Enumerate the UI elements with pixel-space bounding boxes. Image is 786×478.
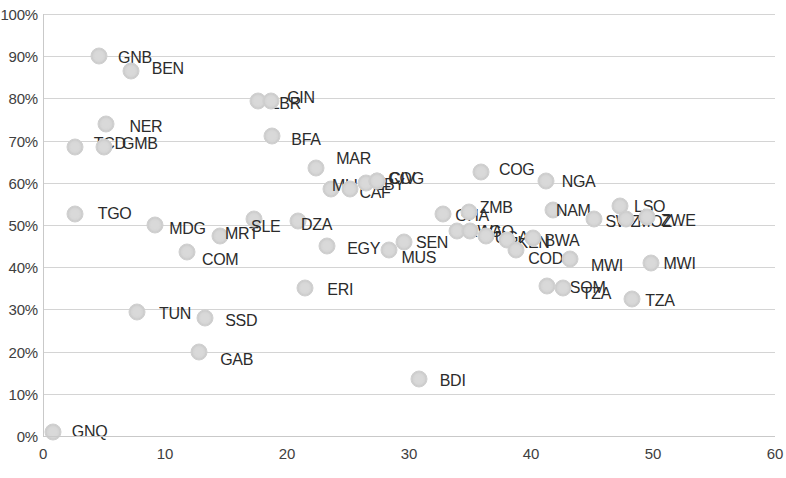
data-point[interactable] (122, 62, 139, 79)
data-point[interactable] (525, 229, 542, 246)
x-axis-line (43, 436, 775, 437)
y-tick-label: 50% (0, 217, 38, 234)
data-point[interactable] (410, 371, 427, 388)
data-point-label: MDG (169, 220, 205, 238)
y-tick-label: 80% (0, 90, 38, 107)
data-point-label: MUS (401, 249, 436, 267)
data-point-label: BWA (544, 232, 579, 250)
data-point[interactable] (308, 160, 325, 177)
data-point[interactable] (98, 115, 115, 132)
data-point[interactable] (369, 172, 386, 189)
data-point[interactable] (44, 423, 61, 440)
data-point[interactable] (66, 206, 83, 223)
data-point[interactable] (396, 233, 413, 250)
data-point[interactable] (462, 223, 479, 240)
plot-area: GNQTGOGNBTCDGMBBENNERTUNMDGCOMMRTSSDGABS… (43, 14, 775, 436)
data-point[interactable] (554, 280, 571, 297)
data-point[interactable] (319, 238, 336, 255)
data-point-label: COD (528, 250, 563, 268)
data-point-label: MWI (591, 257, 623, 275)
data-point[interactable] (128, 303, 145, 320)
data-point[interactable] (178, 244, 195, 261)
data-point-label: EGY (347, 240, 380, 258)
data-point[interactable] (147, 217, 164, 234)
data-point[interactable] (624, 290, 641, 307)
data-point-label: GMB (122, 135, 158, 153)
data-point[interactable] (537, 172, 554, 189)
x-tick-label: 20 (267, 445, 307, 462)
x-tick-label: 10 (145, 445, 185, 462)
data-point-label: ZWE (661, 212, 696, 230)
data-point-label: TZA (645, 292, 674, 310)
data-point[interactable] (460, 204, 477, 221)
data-point-label: BEN (152, 60, 184, 78)
y-tick-label: 20% (0, 343, 38, 360)
data-point[interactable] (562, 250, 579, 267)
data-point[interactable] (586, 210, 603, 227)
gridline-horizontal (43, 394, 775, 395)
data-point-label: SEN (416, 234, 448, 252)
x-tick-label: 60 (755, 445, 786, 462)
data-point-label: SLE (251, 218, 280, 236)
data-point[interactable] (263, 93, 280, 110)
data-point-label: TZA (582, 285, 611, 303)
data-point-label: GNQ (72, 423, 108, 441)
data-point[interactable] (264, 128, 281, 145)
data-point[interactable] (435, 206, 452, 223)
scatter-chart: GNQTGOGNBTCDGMBBENNERTUNMDGCOMMRTSSDGABS… (0, 0, 786, 478)
gridline-horizontal (43, 352, 775, 353)
x-tick-label: 40 (511, 445, 551, 462)
data-point[interactable] (197, 309, 214, 326)
data-point-label: MAR (336, 150, 371, 168)
data-point-label: ERI (327, 281, 353, 299)
data-point-label: BDI (440, 372, 466, 390)
data-point[interactable] (638, 208, 655, 225)
data-point-label: ZMB (480, 199, 513, 217)
data-point-label: TUN (159, 305, 191, 323)
data-point-label: BFA (291, 131, 320, 149)
x-tick-label: 30 (389, 445, 429, 462)
y-tick-label: 100% (0, 6, 38, 23)
gridline-horizontal (43, 56, 775, 57)
data-point-label: COG (499, 161, 535, 179)
y-tick-label: 90% (0, 48, 38, 65)
data-point[interactable] (191, 343, 208, 360)
data-point[interactable] (342, 181, 359, 198)
data-point-label: GAB (220, 351, 253, 369)
data-point[interactable] (91, 48, 108, 65)
data-point-label: GIN (287, 89, 315, 107)
y-tick-label: 70% (0, 132, 38, 149)
gridline-horizontal (43, 14, 775, 15)
data-point-label: NGA (562, 173, 596, 191)
data-point[interactable] (297, 280, 314, 297)
data-point[interactable] (508, 242, 525, 259)
data-point-label: SSD (225, 312, 257, 330)
gridline-horizontal (43, 98, 775, 99)
data-point[interactable] (96, 138, 113, 155)
data-point-label: NER (129, 118, 162, 136)
x-tick-label: 50 (633, 445, 673, 462)
y-tick-label: 40% (0, 259, 38, 276)
data-point-label: COG (388, 170, 424, 188)
data-point-label: DZA (301, 216, 332, 234)
data-point-label: TGO (98, 205, 132, 223)
data-point[interactable] (642, 254, 659, 271)
y-tick-label: 0% (0, 428, 38, 445)
y-tick-label: 30% (0, 301, 38, 318)
y-tick-label: 10% (0, 385, 38, 402)
data-point[interactable] (472, 164, 489, 181)
data-point[interactable] (538, 278, 555, 295)
data-point-label: COM (202, 251, 238, 269)
y-tick-label: 60% (0, 174, 38, 191)
data-point[interactable] (477, 227, 494, 244)
data-point[interactable] (618, 210, 635, 227)
data-point-label: MWI (664, 255, 696, 273)
y-axis-line (43, 14, 44, 436)
data-point[interactable] (66, 138, 83, 155)
x-tick-label: 0 (23, 445, 63, 462)
